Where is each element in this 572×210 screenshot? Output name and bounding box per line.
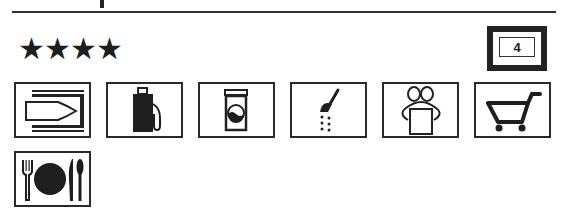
shower-icon — [292, 84, 365, 136]
washing-machine-icon — [200, 84, 273, 136]
header-divider — [12, 11, 556, 13]
facility-restaurant — [14, 151, 91, 207]
shopping-cart-icon — [476, 84, 549, 136]
category-badge-number: 4 — [499, 37, 535, 57]
facility-gifts — [382, 82, 459, 138]
facility-showers — [290, 82, 367, 138]
gift-icon — [384, 84, 457, 136]
category-badge: 4 — [487, 26, 547, 71]
facility-shop — [474, 82, 551, 138]
cut-off-heading-glyph — [100, 0, 104, 8]
facility-fuel — [106, 82, 183, 138]
restaurant-icon — [16, 153, 89, 205]
star-rating: ★★★★ — [18, 34, 122, 64]
facility-marina — [14, 82, 91, 138]
facility-laundry — [198, 82, 275, 138]
boat-berth-icon — [16, 84, 89, 136]
fuel-pump-icon — [108, 84, 181, 136]
